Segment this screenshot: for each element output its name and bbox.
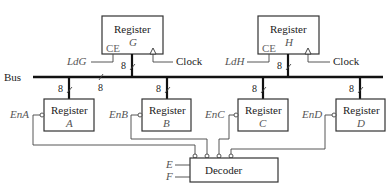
register-g: Register G CE LdG Clock 8 (66, 16, 203, 77)
register-d-width: 8 (349, 83, 354, 94)
active-low-bubble-icon (205, 154, 209, 158)
register-b-title: Register (149, 104, 186, 116)
active-low-bubble-icon (40, 113, 44, 117)
bus-width-label: 8 (98, 82, 103, 93)
register-a-width: 8 (58, 83, 63, 94)
register-d-title: Register (343, 104, 380, 116)
register-b: 8 Register B EnB (108, 77, 207, 156)
register-g-load-signal: LdG (66, 55, 87, 67)
register-g-clock-label: Clock (176, 55, 203, 67)
active-low-bubble-icon (138, 113, 142, 117)
bus-label: Bus (4, 71, 21, 83)
register-h-clock-label: Clock (333, 55, 360, 67)
register-g-width: 8 (121, 60, 126, 71)
register-c: 8 Register C EnC (204, 77, 288, 156)
register-a-name: A (65, 117, 73, 129)
decoder: Decoder E F (165, 154, 278, 182)
register-g-title: Register (114, 23, 151, 35)
register-a-title: Register (51, 104, 88, 116)
register-h-ce-label: CE (262, 42, 276, 54)
register-c-title: Register (245, 104, 282, 116)
decoder-label: Decoder (205, 164, 243, 176)
active-low-bubble-icon (332, 113, 336, 117)
register-g-name: G (129, 36, 137, 48)
register-b-width: 8 (156, 83, 161, 94)
register-c-width: 8 (252, 83, 257, 94)
register-h: Register H CE LdH Clock 8 (224, 16, 360, 77)
register-h-name: H (284, 36, 294, 48)
active-low-bubble-icon (193, 154, 197, 158)
register-a-enable-signal: EnA (9, 108, 29, 120)
register-g-ce-label: CE (106, 42, 120, 54)
decoder-input-f: F (165, 170, 173, 182)
register-h-title: Register (270, 23, 307, 35)
register-d-name: D (356, 117, 365, 129)
register-c-enable-signal: EnC (204, 108, 225, 120)
register-h-load-signal: LdH (224, 55, 246, 67)
register-b-enable-signal: EnB (108, 108, 128, 120)
register-d-enable-signal: EnD (301, 108, 322, 120)
active-low-bubble-icon (229, 154, 233, 158)
decoder-input-e: E (165, 158, 173, 170)
active-low-bubble-icon (217, 154, 221, 158)
register-b-name: B (163, 117, 170, 129)
bus-register-diagram: Bus 8 Register G CE LdG Clock 8 Register… (0, 0, 392, 193)
register-c-name: C (259, 117, 267, 129)
register-h-width: 8 (277, 60, 282, 71)
active-low-bubble-icon (234, 113, 238, 117)
